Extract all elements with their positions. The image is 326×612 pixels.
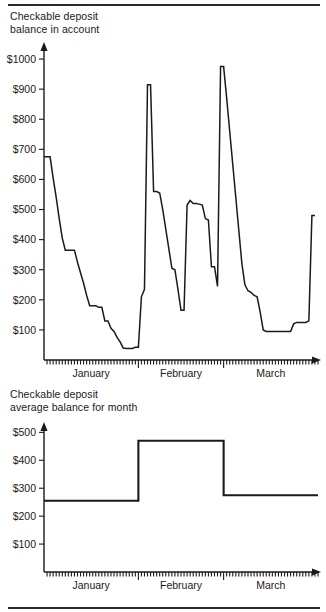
chart-panel-balance-in-account: Checkable deposit balance in account $10… <box>0 10 326 380</box>
x-axis-month-label: January <box>73 367 111 379</box>
y-axis-tick-label: $800 <box>13 113 37 125</box>
x-axis-month-label: March <box>256 579 285 591</box>
x-axis-arrow-icon <box>312 356 321 363</box>
top-divider-rule <box>8 4 320 6</box>
chart-average-balance-for-month: $100$200$300$400$500JanuaryFebruaryMarch <box>0 388 326 608</box>
y-axis-tick-label: $100 <box>13 324 37 336</box>
y-axis-tick-label: $300 <box>13 482 37 494</box>
x-axis-month-label: March <box>256 367 285 379</box>
chart-step-line <box>44 441 318 501</box>
x-axis-month-label: January <box>73 579 111 591</box>
x-axis-month-label: February <box>160 367 203 379</box>
y-axis-tick-label: $200 <box>13 294 37 306</box>
y-axis-tick-label: $600 <box>13 173 37 185</box>
y-axis-tick-label: $700 <box>13 143 37 155</box>
chart-panel-average-balance: Checkable deposit average balance for mo… <box>0 388 326 608</box>
chart-balance-line <box>44 67 315 349</box>
chart-balance-in-account: $100$200$300$400$500$600$700$800$900$100… <box>0 10 326 380</box>
y-axis-tick-label: $400 <box>13 454 37 466</box>
y-axis-tick-label: $400 <box>13 233 37 245</box>
y-axis-tick-label: $200 <box>13 510 37 522</box>
y-axis-tick-label: $1000 <box>7 53 36 65</box>
y-axis-tick-label: $500 <box>13 426 37 438</box>
y-axis-tick-label: $900 <box>13 83 37 95</box>
y-axis-arrow-icon <box>40 42 47 51</box>
x-axis-month-label: February <box>160 579 203 591</box>
y-axis-arrow-icon <box>40 422 47 431</box>
y-axis-tick-label: $500 <box>13 203 37 215</box>
y-axis-tick-label: $300 <box>13 264 37 276</box>
x-axis-arrow-icon <box>312 568 321 575</box>
figure-page: Checkable deposit balance in account $10… <box>0 0 326 612</box>
y-axis-tick-label: $100 <box>13 538 37 550</box>
